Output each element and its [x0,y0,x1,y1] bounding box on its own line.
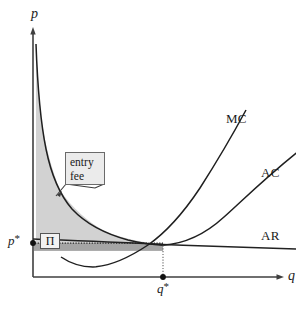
mc-curve-label: MC [226,112,247,125]
profit-symbol: Π [46,234,55,248]
entry-fee-shaded-region [36,46,163,245]
p-star-superscript: * [15,232,21,244]
y-axis-label: p [31,7,38,21]
entry-fee-line-1: entry [70,155,104,169]
q-star-base: q [157,281,164,296]
diagram-canvas [0,0,306,309]
ar-curve-label: AR [261,229,280,242]
p-star-dot [30,240,36,246]
p-star-label: p* [8,234,20,247]
entry-fee-callout-box: entry fee [65,152,105,185]
q-star-label: q* [157,282,169,295]
ac-curve-label: AC [261,166,280,179]
entry-fee-line-2: fee [70,169,104,183]
q-star-superscript: * [164,280,170,292]
p-star-base: p [8,233,15,248]
x-axis-label: q [288,269,295,283]
entry-fee-diagram: p q MC AC AR p* q* Π entry fee [0,0,306,309]
profit-symbol-box: Π [40,233,60,249]
